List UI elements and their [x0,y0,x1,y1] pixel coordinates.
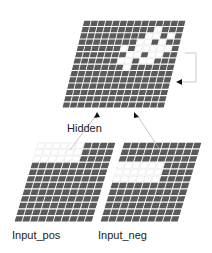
label-hidden: Hidden [67,122,102,134]
recurrent-arrow-icon [176,79,182,85]
diagram-canvas [0,0,212,253]
arrow-pos-icon [94,112,100,118]
recurrent-connector [181,53,196,82]
input-pos-grid [15,143,116,222]
label-input-neg: Input_neg [98,229,147,241]
input-neg-grid [101,143,202,222]
hidden-grid [63,21,186,108]
label-input-pos: Input_pos [12,229,60,241]
arrow-neg-icon [134,112,139,118]
